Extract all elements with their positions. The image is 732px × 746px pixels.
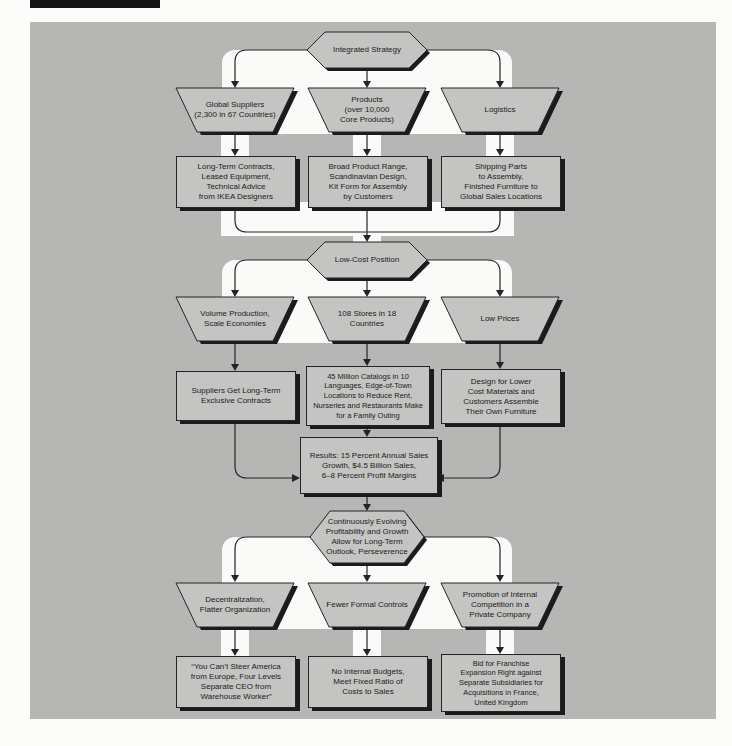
box-cant-steer-america: “You Can’t Steer America from Europe, Fo… — [176, 656, 296, 708]
node-label: Results: 15 Percent Annual Sales Growth,… — [301, 438, 437, 493]
trapezoid-global-suppliers: Global Suppliers (2,300 in 67 Countries) — [176, 88, 294, 132]
node-label: Integrated Strategy — [307, 32, 427, 68]
box-catalogs: 45 Million Catalogs in 10 Languages, Edg… — [306, 366, 430, 426]
scanned-figure-page: Integrated Strategy Global Suppliers (2,… — [0, 0, 732, 746]
node-label: Continuously Evolving Profitability and … — [310, 511, 424, 563]
node-label: Bid for Franchise Expansion Right agains… — [442, 655, 560, 711]
node-label: Global Suppliers (2,300 in 67 Countries) — [176, 88, 294, 132]
node-label: Promotion of Internal Competition in a P… — [441, 583, 559, 627]
trapezoid-volume-production: Volume Production, Scale Economies — [176, 297, 294, 341]
node-label: Logistics — [441, 88, 559, 132]
node-label: 108 Stores in 18 Countries — [308, 297, 426, 341]
box-broad-product-range: Broad Product Range, Scandinavian Design… — [308, 156, 428, 208]
box-long-term-contracts: Long-Term Contracts, Leased Equipment, T… — [176, 156, 296, 208]
node-label: “You Can’t Steer America from Europe, Fo… — [177, 657, 295, 707]
trapezoid-stores: 108 Stores in 18 Countries — [308, 297, 426, 341]
node-label: Low-Cost Position — [307, 242, 427, 278]
box-franchise-expansion: Bid for Franchise Expansion Right agains… — [441, 654, 561, 712]
node-label: 45 Million Catalogs in 10 Languages, Edg… — [307, 367, 429, 425]
node-label: Design for Lower Cost Materials and Cust… — [442, 370, 560, 423]
node-label: Suppliers Get Long-Term Exclusive Contra… — [177, 372, 295, 420]
hexagon-integrated-strategy: Integrated Strategy — [307, 32, 427, 68]
node-label: Decentralization, Flatter Organization — [176, 583, 294, 627]
box-exclusive-contracts: Suppliers Get Long-Term Exclusive Contra… — [176, 371, 296, 421]
box-results: Results: 15 Percent Annual Sales Growth,… — [300, 437, 438, 494]
trapezoid-decentralization: Decentralization, Flatter Organization — [176, 583, 294, 627]
top-black-bar — [30, 0, 160, 8]
node-label: Volume Production, Scale Economies — [176, 297, 294, 341]
trapezoid-internal-competition: Promotion of Internal Competition in a P… — [441, 583, 559, 627]
hexagon-continuously-evolving: Continuously Evolving Profitability and … — [310, 511, 424, 563]
node-label: No Internal Budgets, Meet Fixed Ratio of… — [309, 657, 427, 707]
trapezoid-fewer-controls: Fewer Formal Controls — [308, 583, 426, 627]
box-design-lower-cost: Design for Lower Cost Materials and Cust… — [441, 369, 561, 424]
node-label: Broad Product Range, Scandinavian Design… — [309, 157, 427, 207]
trapezoid-products: Products (over 10,000 Core Products) — [308, 88, 426, 132]
node-label: Shipping Parts to Assembly, Finished Fur… — [442, 157, 560, 207]
trapezoid-low-prices: Low Prices — [441, 297, 559, 341]
node-label: Fewer Formal Controls — [308, 583, 426, 627]
node-label: Low Prices — [441, 297, 559, 341]
trapezoid-logistics: Logistics — [441, 88, 559, 132]
node-label: Products (over 10,000 Core Products) — [308, 88, 426, 132]
node-label: Long-Term Contracts, Leased Equipment, T… — [177, 157, 295, 207]
box-shipping-parts: Shipping Parts to Assembly, Finished Fur… — [441, 156, 561, 208]
hexagon-low-cost-position: Low-Cost Position — [307, 242, 427, 278]
box-no-internal-budgets: No Internal Budgets, Meet Fixed Ratio of… — [308, 656, 428, 708]
